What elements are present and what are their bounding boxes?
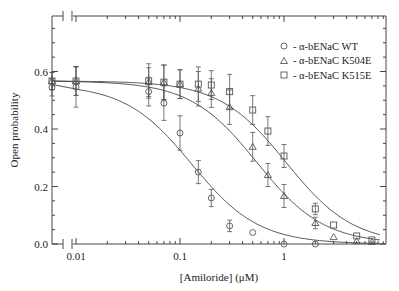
circle-marker	[161, 100, 167, 106]
x-tick-label: 0.01	[66, 250, 85, 262]
legend-label-k504e: - α-bENaC K504E	[293, 55, 371, 66]
square-marker	[331, 222, 337, 228]
triangle-marker	[281, 192, 288, 198]
y-axis-title: Open probability	[8, 92, 20, 167]
circle-marker	[312, 241, 318, 247]
y-tick-label: 0.0	[34, 238, 48, 250]
dose-response-chart: 0.010.11 0.00.20.40.6 [Amiloride] (μM) O…	[0, 0, 399, 291]
square-marker	[354, 233, 360, 239]
triangle-marker	[312, 220, 319, 226]
y-tick-label: 0.2	[34, 181, 48, 193]
fit-curves	[52, 81, 380, 243]
circle-marker	[250, 230, 256, 236]
legend-item-wt: - α-bENaC WT	[281, 41, 358, 52]
circle-marker	[195, 169, 201, 175]
square-marker	[73, 78, 79, 84]
circle-marker	[208, 195, 214, 201]
triangle-marker	[330, 234, 337, 240]
circle-marker	[177, 130, 183, 136]
circle-marker	[227, 223, 233, 229]
x-axis-title: [Amiloride] (μM)	[180, 271, 259, 284]
square-marker	[281, 153, 287, 159]
square-marker	[49, 78, 55, 84]
fit-curve	[52, 84, 380, 243]
legend-item-k504e: - α-bENaC K504E	[281, 55, 372, 66]
triangle-marker-icon	[281, 58, 288, 64]
square-marker	[250, 107, 256, 113]
x-tick-label: 1	[281, 250, 287, 262]
fit-curve	[52, 81, 380, 235]
triangle-marker	[249, 143, 256, 149]
square-marker-icon	[281, 72, 287, 78]
x-tick-label: 0.1	[173, 250, 187, 262]
square-marker	[195, 81, 201, 87]
square-marker	[177, 81, 183, 87]
legend: - α-bENaC WT - α-bENaC K504E - α-bENaC K…	[281, 41, 372, 81]
square-marker	[227, 89, 233, 95]
legend-label-k515e: - α-bENaC K515E	[293, 70, 371, 81]
square-marker	[208, 82, 214, 88]
y-tick-label: 0.6	[34, 66, 48, 78]
square-marker	[265, 128, 271, 134]
legend-label-wt: - α-bENaC WT	[293, 41, 358, 52]
circle-marker	[281, 241, 287, 247]
square-marker	[369, 237, 375, 243]
legend-item-k515e: - α-bENaC K515E	[281, 70, 371, 81]
y-tick-label: 0.4	[34, 123, 48, 135]
circle-marker-icon	[281, 43, 287, 49]
square-marker	[146, 78, 152, 84]
square-marker	[312, 206, 318, 212]
square-marker	[161, 79, 167, 85]
data-points	[49, 64, 376, 247]
fit-curve	[52, 81, 380, 240]
